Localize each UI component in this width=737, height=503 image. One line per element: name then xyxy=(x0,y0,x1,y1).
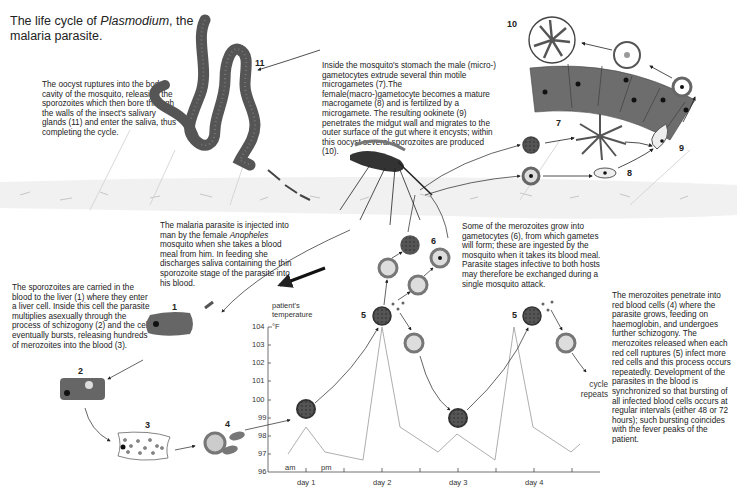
temperature-line xyxy=(288,327,580,460)
schizont-red-cell-icon-2 xyxy=(449,409,467,427)
microgametes-icon xyxy=(576,114,626,160)
x-label-day1: day 1 xyxy=(297,478,315,487)
salivary-gland-icon xyxy=(154,20,255,165)
y-tick: 98 xyxy=(258,431,266,440)
stage-number-9: 9 xyxy=(679,143,684,153)
stage-number-1: 1 xyxy=(172,302,177,312)
mosquito-midgut-icon xyxy=(530,64,695,140)
ring-stage-red-cell-icon-2 xyxy=(557,334,575,352)
y-tick: 97 xyxy=(258,449,266,458)
stage-number-8: 8 xyxy=(627,168,632,178)
stage-number-4: 4 xyxy=(225,419,230,429)
chart-title: patient's temperature xyxy=(272,301,332,319)
y-tick: 99 xyxy=(258,413,266,422)
life-cycle-illustration xyxy=(0,0,737,503)
y-axis-unit: °F xyxy=(272,322,280,331)
temperature-chart xyxy=(268,327,600,472)
x-label-day4: day 4 xyxy=(525,478,543,487)
rupturing-red-cell-icon xyxy=(373,307,391,325)
x-sub-label-am: am xyxy=(285,463,295,472)
gametocyte-precursor-icon-2 xyxy=(409,276,427,294)
gametocyte-precursor-icon xyxy=(379,259,397,277)
stage-number-10: 10 xyxy=(507,19,517,29)
male-gametocyte-icon xyxy=(523,137,539,153)
rupturing-red-cell-icon-2 xyxy=(523,307,541,325)
x-label-day2: day 2 xyxy=(373,478,391,487)
ruptured-liver-cell-icon xyxy=(118,432,170,460)
oocyst-icon xyxy=(529,17,575,63)
stage-number-6: 6 xyxy=(431,236,436,246)
y-tick: 103 xyxy=(252,340,265,349)
stage-number-2: 2 xyxy=(78,366,83,376)
stage-number-11: 11 xyxy=(255,58,265,68)
y-tick: 101 xyxy=(252,376,265,385)
red-cell-invaded-icon xyxy=(205,433,225,453)
stage-number-5b: 5 xyxy=(512,310,517,320)
y-tick: 96 xyxy=(258,467,266,476)
ring-stage-red-cell-icon xyxy=(405,334,423,352)
stage-number-3: 3 xyxy=(145,420,150,430)
y-tick: 100 xyxy=(252,395,265,404)
y-tick: 104 xyxy=(252,322,265,331)
y-tick: 102 xyxy=(252,358,265,367)
male-gametocyte-blood-icon xyxy=(401,236,419,254)
injection-arrow-icon xyxy=(280,268,325,285)
x-label-day3: day 3 xyxy=(449,478,467,487)
x-sub-label-pm: pm xyxy=(321,463,331,472)
stage-number-5: 5 xyxy=(361,310,366,320)
red-blood-cell-icon xyxy=(228,430,246,442)
schizont-liver-cell-icon xyxy=(60,378,105,400)
stage-number-7: 7 xyxy=(556,118,561,128)
schizont-red-cell-icon xyxy=(297,400,315,418)
